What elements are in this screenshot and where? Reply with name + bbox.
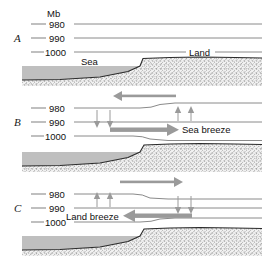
panel-b-isobar-980-label: 980 xyxy=(49,103,65,114)
panel-a-sea-label: Sea xyxy=(81,56,99,67)
panel-c-upper-return-flow-arrow xyxy=(120,177,183,187)
panel-b-isobar-1000-label: 1000 xyxy=(45,131,66,142)
panel-a-isobar-1000-label: 1000 xyxy=(45,47,66,58)
panel-c: C 980 990 1000 xyxy=(14,177,262,256)
panel-a-letter: A xyxy=(13,32,21,44)
panel-b-upper-return-flow-arrow xyxy=(113,91,176,101)
panel-a-unit-label: Mb xyxy=(47,8,60,19)
panel-b-isobar-990-label: 990 xyxy=(49,117,65,128)
panel-a: A Mb 980 990 1000 Sea Land xyxy=(13,8,262,86)
panel-c-letter: C xyxy=(14,202,22,214)
panel-c-isobar-1000-label: 1000 xyxy=(45,217,66,228)
panel-b-isobar-1000-line xyxy=(74,136,262,141)
panel-a-isobar-980-label: 980 xyxy=(49,19,65,30)
panel-b: B 980 990 1000 xyxy=(14,91,262,172)
panel-c-isobar-980-line xyxy=(74,194,262,199)
panel-b-letter: B xyxy=(14,116,21,128)
panel-a-land-label: Land xyxy=(189,47,210,58)
panel-b-subsidence-over-sea-arrows xyxy=(94,110,113,128)
panel-b-surface-flow-arrow xyxy=(110,124,179,137)
panel-b-isobar-980-line xyxy=(74,103,262,108)
panel-c-land-breeze-label: Land breeze xyxy=(66,211,119,222)
panel-c-isobar-980-label: 980 xyxy=(49,189,65,200)
panel-b-sea-breeze-label: Sea breeze xyxy=(182,124,231,135)
panel-a-isobar-990-label: 990 xyxy=(49,33,65,44)
sea-breeze-land-breeze-figure: A Mb 980 990 1000 Sea Land B xyxy=(0,0,267,264)
panel-b-ascent-over-land-arrows xyxy=(175,106,194,121)
panel-c-isobar-990-label: 990 xyxy=(49,203,65,214)
